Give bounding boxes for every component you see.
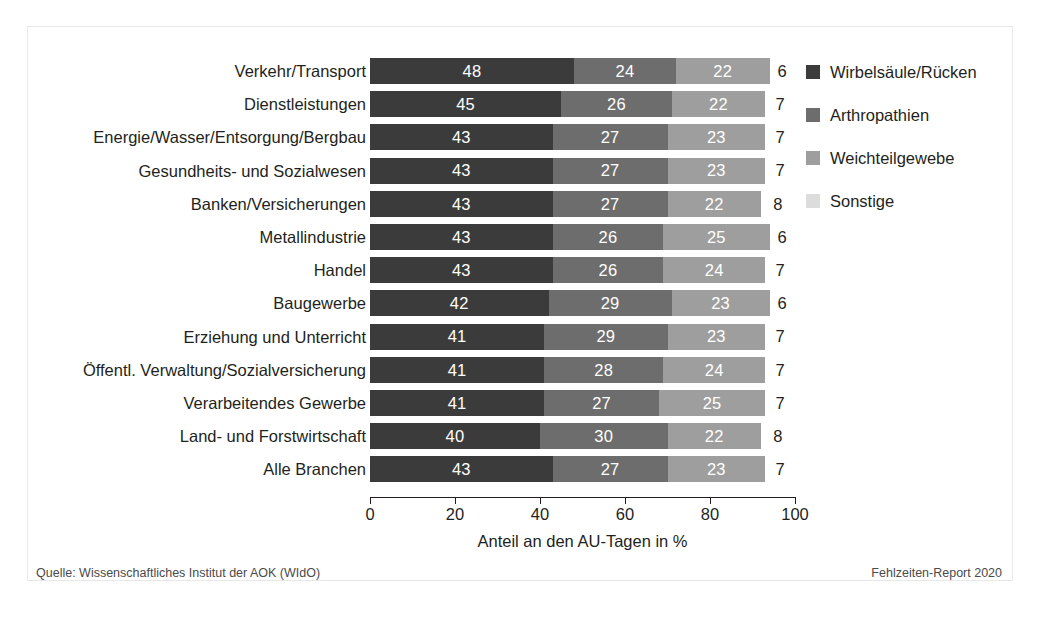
bar-segment[interactable]: 45 — [370, 91, 561, 117]
bar-segment[interactable]: 23 — [668, 124, 766, 150]
bar-segment[interactable]: 22 — [668, 423, 762, 449]
category-label: Öffentl. Verwaltung/Sozialversicherung — [0, 357, 366, 383]
bar-segment[interactable]: 43 — [370, 158, 553, 184]
x-axis-tick-label: 0 — [365, 506, 374, 523]
bar-segment[interactable]: 43 — [370, 191, 553, 217]
bar-segment[interactable]: 7 — [765, 357, 795, 383]
bar-segment[interactable]: 23 — [668, 324, 766, 350]
legend-item[interactable]: Arthropathien — [806, 101, 977, 129]
bar-segment[interactable]: 26 — [561, 91, 672, 117]
bar-segment[interactable]: 22 — [676, 58, 770, 84]
bar-row[interactable]: 4128247 — [370, 357, 795, 383]
bar-segment[interactable]: 24 — [574, 58, 676, 84]
legend-item[interactable]: Wirbelsäule/Rücken — [806, 58, 977, 86]
bar-segment[interactable]: 23 — [668, 158, 766, 184]
bar-segment[interactable]: 7 — [765, 456, 795, 482]
category-label: Erziehung und Unterricht — [0, 324, 366, 350]
bar-segment[interactable]: 8 — [761, 423, 795, 449]
bar-segment[interactable]: 25 — [663, 224, 769, 250]
bar-value-label: 24 — [705, 362, 724, 379]
bar-segment[interactable]: 24 — [663, 357, 765, 383]
bar-segment[interactable]: 22 — [672, 91, 766, 117]
bar-segment[interactable]: 28 — [544, 357, 663, 383]
bar-segment[interactable]: 48 — [370, 58, 574, 84]
bar-row[interactable]: 4326247 — [370, 257, 795, 283]
bar-segment[interactable]: 29 — [549, 290, 672, 316]
bar-segment[interactable]: 41 — [370, 357, 544, 383]
bar-segment[interactable]: 8 — [761, 191, 795, 217]
category-label: Alle Branchen — [0, 456, 366, 482]
bar-segment[interactable]: 27 — [544, 390, 659, 416]
bar-segment[interactable]: 27 — [553, 191, 668, 217]
bar-value-label: 7 — [775, 328, 784, 345]
bar-value-label: 7 — [775, 262, 784, 279]
bar-segment[interactable]: 7 — [765, 257, 795, 283]
bar-row[interactable]: 4526227 — [370, 91, 795, 117]
bar-value-label: 28 — [594, 362, 613, 379]
bar-value-label: 7 — [775, 461, 784, 478]
bar-value-label: 23 — [711, 295, 730, 312]
bar-row[interactable]: 4327237 — [370, 456, 795, 482]
x-axis-tick — [710, 497, 711, 504]
bar-segment[interactable]: 43 — [370, 257, 553, 283]
bar-segment[interactable]: 27 — [553, 456, 668, 482]
bar-value-label: 43 — [452, 129, 471, 146]
legend-swatch-arthropathien-icon — [806, 108, 820, 122]
bar-row[interactable]: 4229236 — [370, 290, 795, 316]
bar-segment[interactable]: 29 — [544, 324, 667, 350]
bar-segment[interactable]: 43 — [370, 456, 553, 482]
bar-segment[interactable]: 6 — [770, 224, 796, 250]
bar-segment[interactable]: 26 — [553, 257, 664, 283]
bar-segment[interactable]: 26 — [553, 224, 664, 250]
bar-segment[interactable]: 41 — [370, 390, 544, 416]
bar-segment[interactable]: 7 — [765, 124, 795, 150]
bar-segment[interactable]: 24 — [663, 257, 765, 283]
bar-row[interactable]: 4127257 — [370, 390, 795, 416]
x-axis-tick-label: 60 — [616, 506, 634, 523]
source-note: Quelle: Wissenschaftliches Institut der … — [36, 566, 320, 580]
bar-value-label: 7 — [775, 395, 784, 412]
bar-segment[interactable]: 7 — [765, 91, 795, 117]
bar-segment[interactable]: 7 — [765, 324, 795, 350]
bar-value-label: 22 — [709, 96, 728, 113]
bar-value-label: 41 — [448, 362, 467, 379]
bar-segment[interactable]: 40 — [370, 423, 540, 449]
bar-segment[interactable]: 30 — [540, 423, 668, 449]
bar-value-label: 43 — [452, 262, 471, 279]
legend-item[interactable]: Weichteilgewebe — [806, 144, 977, 172]
bar-row[interactable]: 4326256 — [370, 224, 795, 250]
bar-segment[interactable]: 43 — [370, 224, 553, 250]
bar-row[interactable]: 4327237 — [370, 158, 795, 184]
x-axis-tick-label: 20 — [446, 506, 464, 523]
bar-segment[interactable]: 23 — [668, 456, 766, 482]
bar-segment[interactable]: 43 — [370, 124, 553, 150]
bar-segment[interactable]: 27 — [553, 158, 668, 184]
legend-swatch-wirbelsaeule-icon — [806, 65, 820, 79]
bar-segment[interactable]: 22 — [668, 191, 762, 217]
bar-segment[interactable]: 25 — [659, 390, 765, 416]
bar-row[interactable]: 4327237 — [370, 124, 795, 150]
bar-value-label: 41 — [448, 395, 467, 412]
legend-item[interactable]: Sonstige — [806, 187, 977, 215]
bar-segment[interactable]: 41 — [370, 324, 544, 350]
bar-value-label: 22 — [705, 428, 724, 445]
bar-segment[interactable]: 7 — [765, 390, 795, 416]
bar-segment[interactable]: 6 — [770, 58, 796, 84]
x-axis-tick-label: 40 — [531, 506, 549, 523]
bar-row[interactable]: 4824226 — [370, 58, 795, 84]
bar-value-label: 42 — [450, 295, 469, 312]
bar-value-label: 29 — [596, 328, 615, 345]
bar-row[interactable]: 4129237 — [370, 324, 795, 350]
bar-value-label: 22 — [713, 63, 732, 80]
legend-label: Arthropathien — [830, 107, 929, 124]
bar-value-label: 7 — [775, 362, 784, 379]
bar-segment[interactable]: 6 — [770, 290, 796, 316]
bar-row[interactable]: 4327228 — [370, 191, 795, 217]
bar-value-label: 6 — [778, 229, 787, 246]
bar-segment[interactable]: 7 — [765, 158, 795, 184]
bar-segment[interactable]: 42 — [370, 290, 549, 316]
bar-segment[interactable]: 23 — [672, 290, 770, 316]
bar-value-label: 26 — [607, 96, 626, 113]
bar-segment[interactable]: 27 — [553, 124, 668, 150]
bar-row[interactable]: 4030228 — [370, 423, 795, 449]
